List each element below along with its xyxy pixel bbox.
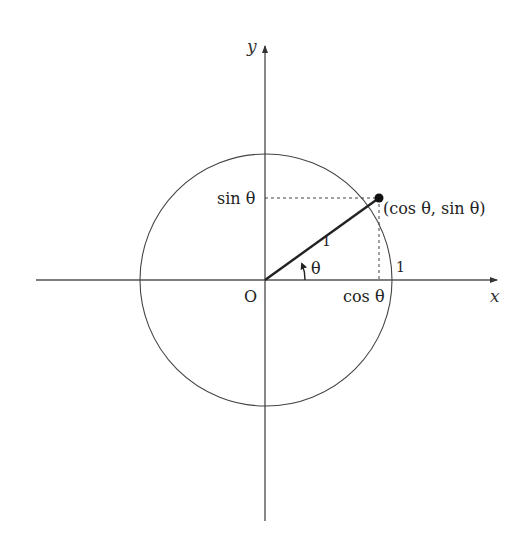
angle-arc [302, 264, 305, 280]
cos-label: cos θ [343, 287, 385, 306]
unit-axis-label: 1 [396, 259, 405, 275]
origin-label: O [244, 287, 257, 306]
y-axis-label: y [246, 36, 257, 56]
radius-label: 1 [322, 233, 331, 249]
unit-circle-diagram: y x O (cos θ, sin θ) sin θ cos θ 1 1 θ [0, 0, 531, 558]
point-label: (cos θ, sin θ) [383, 199, 486, 218]
sin-label: sin θ [217, 189, 255, 208]
theta-label: θ [311, 259, 321, 278]
x-axis-label: x [490, 286, 500, 306]
